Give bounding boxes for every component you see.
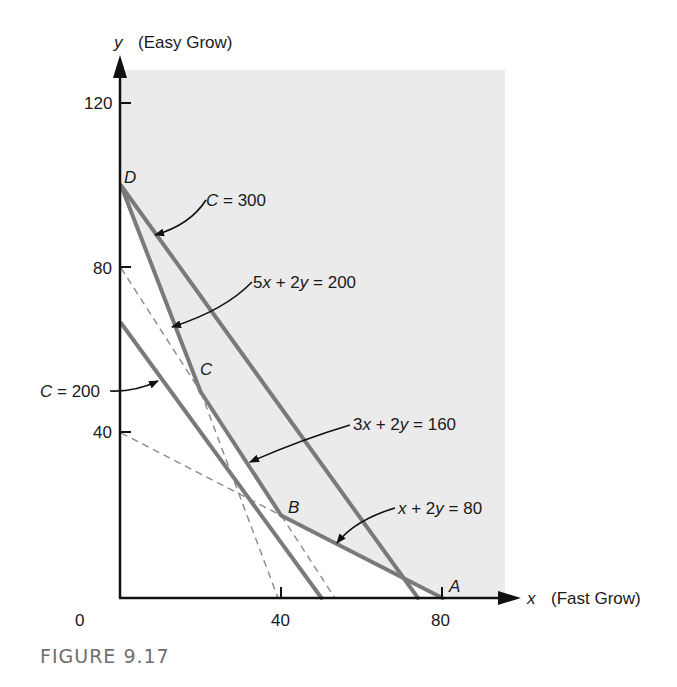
- x-axis-var: x: [526, 589, 536, 608]
- y-tick-40: 40: [93, 423, 112, 442]
- y-axis-var: y: [113, 33, 124, 52]
- annotation-5x2y200: 5x + 2y = 200: [253, 273, 356, 292]
- y-tick-80: 80: [93, 259, 112, 278]
- annotation-c200: C = 200: [40, 382, 100, 401]
- x-axis-label: (Fast Grow): [551, 589, 641, 608]
- origin-label: 0: [75, 611, 84, 630]
- vertex-c: C: [200, 360, 213, 379]
- x-tick-80: 80: [431, 611, 450, 630]
- annotation-c300: C = 300: [206, 191, 266, 210]
- figure-caption: FIGURE 9.17: [40, 645, 170, 667]
- y-tick-120: 120: [84, 94, 112, 113]
- vertex-b: B: [288, 498, 299, 517]
- vertex-d: D: [124, 168, 136, 187]
- x-axis-arrow-icon: [498, 591, 521, 605]
- x-tick-40: 40: [271, 611, 290, 630]
- y-axis-arrow-icon: [113, 55, 127, 78]
- linear-programming-chart: y (Easy Grow) x (Fast Grow) 120 80 40 0 …: [0, 0, 677, 687]
- vertex-a: A: [448, 577, 460, 596]
- annotation-x2y80: x + 2y = 80: [397, 499, 482, 518]
- y-axis-label: (Easy Grow): [138, 33, 232, 52]
- annotation-3x2y160: 3x + 2y = 160: [353, 415, 456, 434]
